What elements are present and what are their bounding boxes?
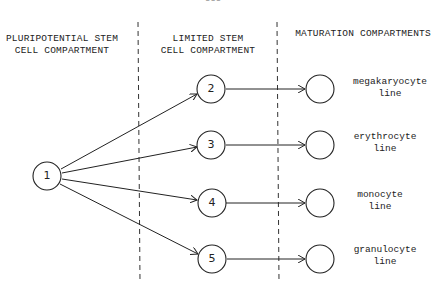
line-label-name: erythrocyte — [335, 131, 435, 143]
monocyte-line-label: monocyte line — [335, 189, 425, 213]
line-label-suffix: line — [335, 143, 435, 155]
node-4-label: 4 — [202, 197, 222, 209]
line-label-suffix: line — [340, 256, 430, 268]
divider-dashed-2 — [277, 22, 279, 282]
node-2-label: 2 — [201, 83, 221, 95]
granulocyte-line-label: granulocyte line — [340, 244, 430, 268]
line-label-name: megakaryocyte — [340, 76, 440, 88]
erythrocyte-line-label: erythrocyte line — [335, 131, 435, 155]
line-label-suffix: line — [340, 88, 440, 100]
node-1-label: 1 — [37, 170, 57, 182]
line-label-name: granulocyte — [340, 244, 430, 256]
divider-dashed-1 — [138, 22, 140, 282]
line-label-suffix: line — [335, 201, 425, 213]
node-3-label: 3 — [201, 139, 221, 151]
node-5-label: 5 — [202, 253, 222, 265]
stem-cell-diagram: 555 PLURIPOTENTIAL STEM CELL COMPARTMENT… — [0, 0, 440, 292]
megakaryocyte-line-label: megakaryocyte line — [340, 76, 440, 100]
line-label-name: monocyte — [335, 189, 425, 201]
